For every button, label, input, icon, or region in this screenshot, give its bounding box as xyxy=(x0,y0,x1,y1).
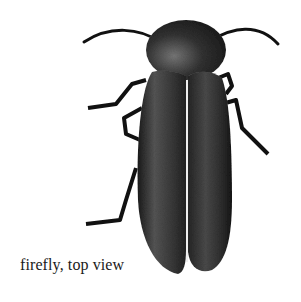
right-elytron xyxy=(188,72,232,271)
caption: firefly, top view xyxy=(20,256,124,274)
left-front-leg xyxy=(88,80,146,108)
left-hind-leg xyxy=(86,168,136,224)
head-shield xyxy=(146,20,226,80)
left-elytron xyxy=(138,71,186,274)
